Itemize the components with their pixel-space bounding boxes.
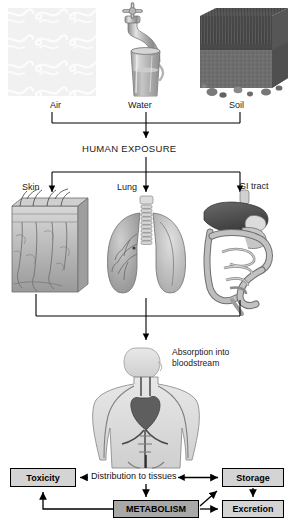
route-label-gi-tract: GI tract <box>239 181 269 191</box>
route-label-lung: Lung <box>117 182 137 192</box>
source-label-soil: Soil <box>229 100 244 110</box>
gi-tract-icon <box>204 190 270 314</box>
air-swirls-icon <box>8 8 96 96</box>
skin-cross-section-icon <box>12 189 88 292</box>
human-exposure-node: HUMAN EXPOSURE <box>82 144 176 154</box>
grass-soil-block-icon <box>200 8 288 98</box>
absorption-label: Absorption into bloodstream <box>172 347 262 369</box>
fate-box-storage: Storage <box>222 468 284 487</box>
fate-box-excretion: Excretion <box>222 500 284 518</box>
exposure-pathway-diagram <box>0 0 293 526</box>
faucet-glass-icon <box>124 4 163 96</box>
source-label-water: Water <box>128 100 152 110</box>
source-label-air: Air <box>50 100 61 110</box>
routes-to-absorption-connector <box>36 294 240 340</box>
fate-box-metabolism: METABOLISM <box>113 500 199 518</box>
sources-to-exposure-connector <box>52 112 240 138</box>
fate-box-toxicity: Toxicity <box>10 468 76 487</box>
distribution-to-tissues-label: Distribution to tissues <box>91 471 177 481</box>
lungs-icon <box>107 196 185 293</box>
route-label-skin: Skin <box>22 182 40 192</box>
exposure-to-routes-connector <box>52 157 240 192</box>
